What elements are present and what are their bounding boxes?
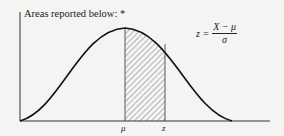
formula-fraction: X − μ σ — [212, 21, 237, 46]
formula-numerator: X − μ — [212, 21, 237, 34]
formula-denominator: σ — [222, 34, 227, 46]
areas-note: Areas reported below: * — [24, 8, 125, 19]
z-label: z — [162, 123, 166, 133]
formula-lhs: z = — [196, 28, 209, 39]
normal-curve-diagram — [0, 0, 284, 136]
mu-label: μ — [121, 123, 126, 133]
z-formula: z = X − μ σ — [196, 21, 237, 46]
